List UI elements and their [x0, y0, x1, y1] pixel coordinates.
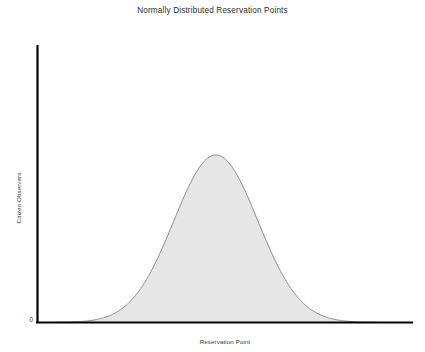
chart-container: Normally Distributed Reservation Points …: [0, 0, 425, 352]
y-axis-label-text: Citizen Observers: [15, 173, 22, 224]
plot-area: [0, 0, 425, 352]
y-axis-tick-zero: 0: [20, 316, 33, 323]
y-axis-label: Citizen Observers: [11, 155, 25, 241]
x-axis-label: Reservation Point: [36, 338, 414, 345]
distribution-area-fill: [38, 155, 414, 323]
